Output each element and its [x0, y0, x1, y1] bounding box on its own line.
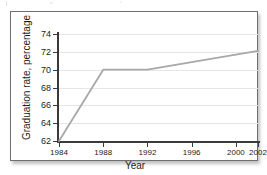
y-axis-label: Graduation rate, percentage	[21, 15, 32, 141]
scan-artifact	[120, 1, 122, 3]
graduation-rate-line	[59, 51, 258, 141]
chart-figure-frame: 62646668707274 198419881992199620002002 …	[10, 11, 258, 161]
figure-root: 62646668707274 198419881992199620002002 …	[0, 0, 267, 175]
scan-artifact	[6, 1, 7, 6]
scan-artifact	[50, 2, 53, 4]
data-series-layer	[11, 12, 259, 162]
x-axis-label: Year	[11, 160, 259, 171]
